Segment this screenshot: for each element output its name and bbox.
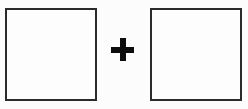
right-square-label (152, 10, 153, 11)
left-square-box[interactable] (5, 8, 97, 101)
right-square-box[interactable] (150, 8, 242, 101)
left-square-label (7, 10, 8, 11)
diagram-canvas: + (0, 0, 248, 109)
plus-sign-icon: + (111, 38, 134, 61)
plus-vertical-bar (120, 38, 126, 61)
plus-sign-label: + (111, 38, 112, 39)
